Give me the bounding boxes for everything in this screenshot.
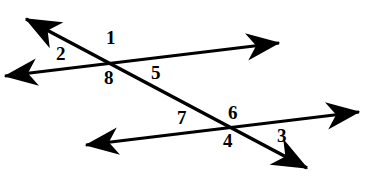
angle-label-2: 2: [56, 44, 66, 63]
angle-label-5: 5: [151, 63, 161, 82]
angle-label-7: 7: [177, 108, 187, 127]
angle-label-8: 8: [104, 68, 114, 87]
geometry-canvas: [0, 0, 386, 190]
transversal-line: [26, 19, 307, 168]
upper-parallel-line: [5, 43, 279, 76]
angle-label-3: 3: [277, 126, 287, 145]
angle-label-6: 6: [228, 103, 238, 122]
angle-label-1: 1: [106, 28, 116, 47]
lines-group: [5, 19, 359, 168]
angle-label-4: 4: [223, 131, 233, 150]
geometry-figure: 1 2 8 5 7 6 4 3: [0, 0, 386, 190]
